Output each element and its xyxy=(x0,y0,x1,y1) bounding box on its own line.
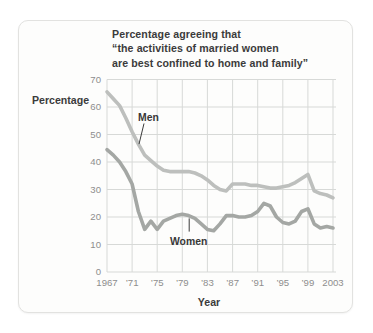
y-axis-title: Percentage xyxy=(32,94,89,106)
x-axis-title: Year xyxy=(198,296,220,308)
page: 0102030405060701967’71’75’79’83’87’91’95… xyxy=(0,0,373,333)
chart-title-line-1: Percentage agreeing that xyxy=(112,27,308,41)
men-series-label: Men xyxy=(138,111,159,122)
chart-title-line-2: “the activities of married women xyxy=(112,41,308,55)
chart-title-line-3: are best confined to home and family” xyxy=(112,56,308,70)
women-series-label: Women xyxy=(170,235,207,246)
chart-title: Percentage agreeing that “the activities… xyxy=(112,27,308,70)
